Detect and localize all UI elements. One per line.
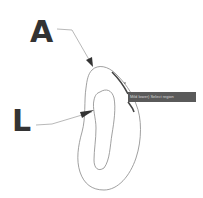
arrow-l-head — [80, 110, 94, 118]
label-a: A — [30, 17, 53, 47]
arrow-a-head — [86, 57, 93, 67]
outer-ear-contour — [78, 67, 141, 190]
region-tooltip: Mild lower) Select region — [128, 92, 196, 102]
inner-ear-contour — [93, 90, 114, 170]
marker-dot — [124, 82, 126, 84]
label-l: L — [12, 106, 31, 136]
arrow-a-line — [57, 29, 91, 63]
